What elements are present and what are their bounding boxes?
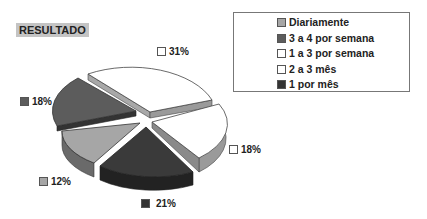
data-label-1-por-mes: 21% bbox=[141, 198, 176, 209]
label-swatch bbox=[229, 145, 238, 154]
label-swatch bbox=[141, 199, 150, 208]
label-swatch bbox=[157, 47, 166, 56]
data-label-3-a-4: 18% bbox=[20, 96, 52, 107]
legend-item-2-a-3: 2 a 3 mês bbox=[277, 62, 409, 78]
legend-item-1-a-3: 1 a 3 por semana bbox=[277, 46, 409, 62]
data-label-2-a-3: 18% bbox=[229, 144, 261, 155]
label-swatch bbox=[39, 177, 48, 186]
legend-swatch bbox=[277, 49, 286, 58]
legend-item-1-por-mes: 1 por mês bbox=[277, 77, 409, 93]
data-label-1-a-3: 31% bbox=[157, 46, 189, 57]
data-label-diariamente: 12% bbox=[39, 176, 71, 187]
legend-swatch bbox=[277, 18, 286, 27]
chart-legend: Diariamente 3 a 4 por semana 1 a 3 por s… bbox=[233, 12, 410, 92]
legend-swatch bbox=[277, 65, 286, 74]
legend-swatch bbox=[277, 80, 286, 89]
legend-swatch bbox=[277, 34, 286, 43]
label-swatch bbox=[20, 97, 29, 106]
legend-item-3-a-4: 3 a 4 por semana bbox=[277, 31, 409, 47]
legend-item-diariamente: Diariamente bbox=[277, 15, 409, 31]
